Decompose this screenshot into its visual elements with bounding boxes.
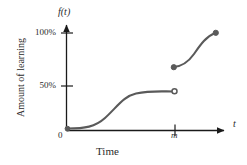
y-axis-title: Amount of learning bbox=[15, 18, 26, 138]
marker-origin-filled-circle bbox=[65, 126, 70, 131]
origin-label: 0 bbox=[58, 130, 63, 140]
learning-curve-figure: f(t) t 100% 50% m 0 Amount of learning T… bbox=[0, 0, 247, 165]
curve-segment-2 bbox=[174, 33, 216, 67]
y-tick-label-100: 100% bbox=[26, 27, 56, 37]
y-axis-variable-label: f(t) bbox=[58, 6, 70, 17]
marker-terminal-filled-circle bbox=[213, 30, 218, 35]
curve-segment-1 bbox=[68, 91, 174, 128]
x-axis-title: Time bbox=[96, 145, 119, 157]
marker-left-limit-open-circle bbox=[172, 89, 177, 94]
y-tick-label-50: 50% bbox=[26, 80, 56, 90]
marker-right-value-filled-circle bbox=[171, 65, 176, 70]
x-axis-variable-label: t bbox=[233, 118, 236, 129]
x-tick-label-m: m bbox=[171, 130, 178, 140]
